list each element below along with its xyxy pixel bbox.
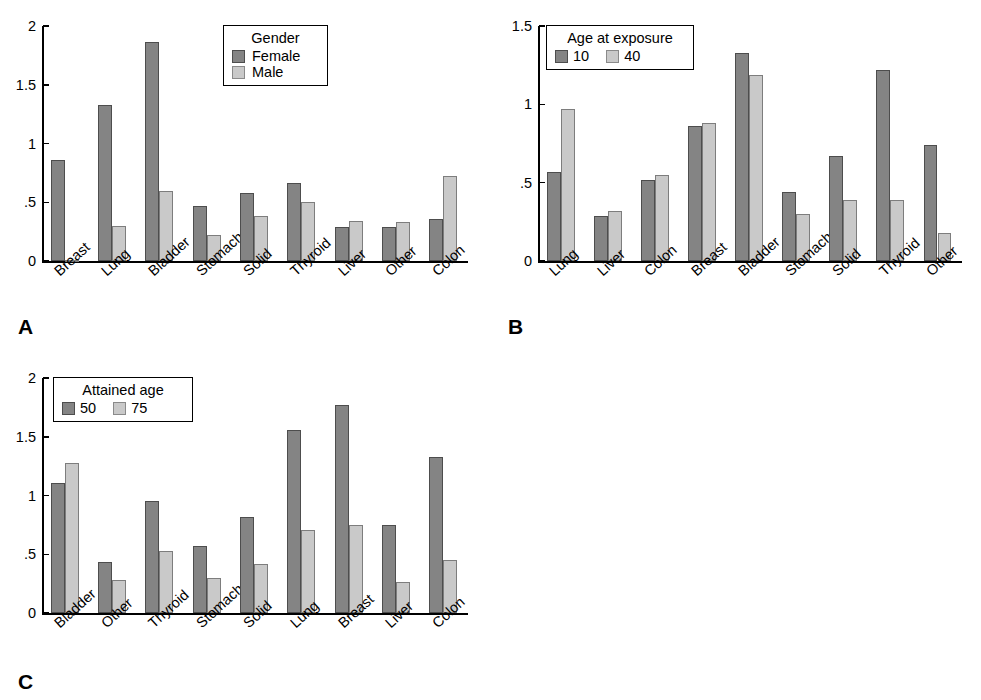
y-axis-tick-label: 0 xyxy=(490,254,532,269)
legend-item: Male xyxy=(232,65,319,80)
y-axis-tick xyxy=(43,495,49,497)
legend-item-label: 10 xyxy=(573,49,589,64)
y-axis-tick xyxy=(43,377,49,379)
bar xyxy=(98,562,112,613)
legend-item: 50 xyxy=(62,401,96,416)
bar xyxy=(240,517,254,613)
bar xyxy=(65,463,79,613)
bar xyxy=(924,145,938,261)
bar xyxy=(547,172,561,261)
y-axis-tick-label: 1.5 xyxy=(490,19,532,34)
bar xyxy=(240,193,254,261)
y-axis-tick-label: 1 xyxy=(0,137,36,152)
y-axis-line xyxy=(538,26,540,262)
y-axis-tick xyxy=(43,202,49,204)
y-axis-tick-label: 1.5 xyxy=(0,430,36,445)
y-axis-tick-label: 1 xyxy=(0,489,36,504)
bar xyxy=(641,180,655,261)
y-axis-tick-label: 2 xyxy=(0,19,36,34)
y-axis-tick xyxy=(43,84,49,86)
panel-c: 0.511.52BladderOtherThyroidStomachSolidL… xyxy=(0,352,490,700)
bar xyxy=(829,156,843,261)
legend-item-label: Male xyxy=(252,65,283,80)
y-axis-tick-label: 0 xyxy=(0,606,36,621)
panel-a: 0.511.52BreastLungBladderStomachSolidThy… xyxy=(0,0,490,345)
bar xyxy=(287,183,301,261)
bar xyxy=(429,457,443,613)
bar xyxy=(51,483,65,613)
chart-legend: GenderFemaleMale xyxy=(223,25,328,86)
y-axis-tick xyxy=(539,260,545,262)
bar xyxy=(145,501,159,613)
legend-item: 40 xyxy=(606,49,640,64)
bar xyxy=(335,405,349,613)
bar xyxy=(594,216,608,261)
bar xyxy=(749,75,763,261)
bar xyxy=(876,70,890,261)
legend-item-label: Female xyxy=(252,49,300,64)
legend-swatch-icon xyxy=(232,66,245,79)
legend-item: 10 xyxy=(555,49,589,64)
chart-legend: Age at exposure1040 xyxy=(546,25,694,70)
panel-letter: A xyxy=(18,315,33,339)
legend-item: 75 xyxy=(113,401,147,416)
bar xyxy=(735,53,749,261)
y-axis-tick xyxy=(43,612,49,614)
y-axis-tick xyxy=(539,25,545,27)
bar xyxy=(145,42,159,261)
bar xyxy=(688,126,702,261)
y-axis-tick-label: .5 xyxy=(490,176,532,191)
y-axis-tick-label: .5 xyxy=(0,195,36,210)
y-axis-tick xyxy=(43,554,49,556)
y-axis-tick xyxy=(43,260,49,262)
bar xyxy=(193,206,207,261)
y-axis-tick xyxy=(539,104,545,106)
bar xyxy=(561,109,575,261)
legend-title: Attained age xyxy=(62,382,184,399)
bar xyxy=(382,525,396,613)
bar xyxy=(702,123,716,261)
y-axis-tick xyxy=(43,143,49,145)
y-axis-tick-label: .5 xyxy=(0,547,36,562)
legend-swatch-icon xyxy=(232,50,245,63)
legend-item-label: 50 xyxy=(80,401,96,416)
bar xyxy=(287,430,301,613)
y-axis-tick-label: 1 xyxy=(490,97,532,112)
y-axis-tick xyxy=(539,182,545,184)
y-axis-tick-label: 0 xyxy=(0,254,36,269)
legend-title: Age at exposure xyxy=(555,30,685,47)
legend-swatch-icon xyxy=(62,402,75,415)
legend-swatch-icon xyxy=(555,50,568,63)
y-axis-tick-label: 1.5 xyxy=(0,78,36,93)
panel-letter: B xyxy=(508,315,523,339)
bar xyxy=(51,160,65,261)
legend-item: Female xyxy=(232,49,319,64)
legend-item-label: 75 xyxy=(131,401,147,416)
legend-entries: 1040 xyxy=(555,49,685,64)
y-axis-tick-label: 2 xyxy=(0,371,36,386)
legend-entries: FemaleMale xyxy=(232,49,319,80)
panel-b: 0.511.5LungLiverColonBreastBladderStomac… xyxy=(490,0,981,345)
legend-entries: 5075 xyxy=(62,401,184,416)
panel-letter: C xyxy=(18,670,33,694)
bar xyxy=(782,192,796,261)
chart-legend: Attained age5075 xyxy=(53,377,193,422)
y-axis-tick xyxy=(43,25,49,27)
legend-swatch-icon xyxy=(113,402,126,415)
legend-title: Gender xyxy=(232,30,319,47)
legend-swatch-icon xyxy=(606,50,619,63)
bar xyxy=(98,105,112,261)
legend-item-label: 40 xyxy=(624,49,640,64)
y-axis-tick xyxy=(43,436,49,438)
bar xyxy=(193,546,207,613)
